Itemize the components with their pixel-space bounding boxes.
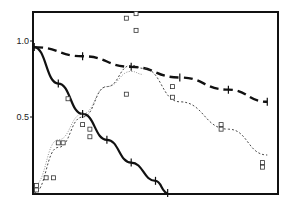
scatter-point <box>124 16 128 20</box>
scatter-point <box>171 95 175 99</box>
scatter-point <box>66 97 70 101</box>
scatter-point <box>260 161 264 165</box>
scatter-point <box>134 12 138 16</box>
scatter-points <box>34 12 264 192</box>
scatter-point <box>88 135 92 139</box>
scatter-point <box>260 165 264 169</box>
y-tick-label: 0.5 <box>16 112 29 122</box>
scatter-point <box>61 141 65 145</box>
scatter-point <box>171 85 175 89</box>
scatter-point <box>219 123 223 127</box>
scatter-point <box>124 92 128 96</box>
y-tick-label: 1.0 <box>16 36 29 46</box>
scatter-point <box>34 188 38 192</box>
chart: 0.51.0 <box>0 0 290 205</box>
scatter-point <box>51 176 55 180</box>
scatter-point <box>219 127 223 131</box>
scatter-point <box>81 123 85 127</box>
y-axis: 0.51.0 <box>16 36 33 122</box>
scatter-point <box>44 176 48 180</box>
scatter-point <box>88 127 92 131</box>
scatter-point <box>134 28 138 32</box>
scatter-point <box>34 183 38 187</box>
series-lines <box>34 43 267 197</box>
plot-frame <box>33 12 278 194</box>
scatter-point <box>56 141 60 145</box>
